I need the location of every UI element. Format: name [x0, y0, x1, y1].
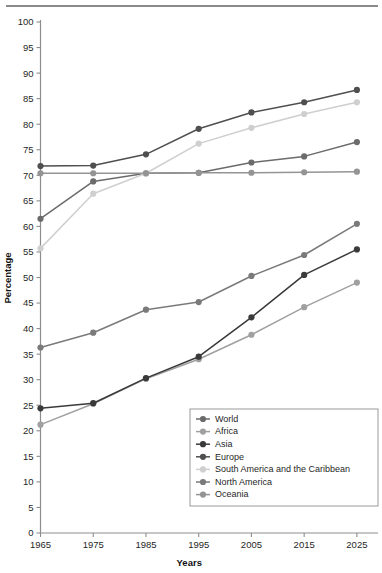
- data-point: [301, 304, 307, 310]
- y-tick-label: 70: [23, 170, 34, 181]
- data-point: [196, 170, 202, 176]
- data-point: [248, 314, 254, 320]
- series-world: [37, 139, 360, 222]
- legend-swatch-marker: [200, 492, 206, 498]
- legend-item-label: Oceania: [215, 489, 249, 499]
- data-point: [301, 272, 307, 278]
- y-tick-label: 30: [23, 374, 34, 385]
- data-point: [90, 162, 96, 168]
- y-tick-label: 95: [23, 42, 34, 53]
- x-axis-ticks: 1965197519851995200520152025: [30, 533, 368, 550]
- y-tick-label: 25: [23, 400, 34, 411]
- x-tick-label: 1995: [188, 539, 209, 550]
- series-oceania: [37, 169, 360, 177]
- series-north-america: [37, 221, 360, 351]
- data-point: [37, 216, 43, 222]
- chart-canvas: 0510152025303540455055606570758085909510…: [0, 0, 382, 573]
- data-point: [248, 109, 254, 115]
- series-line: [41, 142, 357, 219]
- data-point: [301, 252, 307, 258]
- data-point: [37, 245, 43, 251]
- data-point: [196, 299, 202, 305]
- data-point: [354, 87, 360, 93]
- data-point: [196, 354, 202, 360]
- data-point: [354, 139, 360, 145]
- data-point: [248, 332, 254, 338]
- line-chart: 0510152025303540455055606570758085909510…: [0, 0, 382, 573]
- legend-item-label: Asia: [215, 439, 233, 449]
- data-point: [90, 178, 96, 184]
- data-point: [354, 280, 360, 286]
- data-point: [143, 170, 149, 176]
- data-point: [143, 307, 149, 313]
- y-tick-label: 0: [28, 527, 33, 538]
- x-tick-label: 1985: [135, 539, 156, 550]
- y-tick-label: 80: [23, 119, 34, 130]
- legend-item-label: Europe: [215, 452, 244, 462]
- data-point: [90, 170, 96, 176]
- data-point: [354, 221, 360, 227]
- y-tick-label: 85: [23, 93, 34, 104]
- legend-item-label: World: [215, 414, 238, 424]
- data-point: [196, 141, 202, 147]
- legend-swatch-marker: [200, 479, 206, 485]
- y-axis-ticks: 0510152025303540455055606570758085909510…: [18, 16, 41, 538]
- legend-item-label: Africa: [215, 426, 238, 436]
- data-point: [354, 99, 360, 105]
- y-tick-label: 60: [23, 221, 34, 232]
- x-tick-label: 2005: [241, 539, 262, 550]
- data-point: [90, 330, 96, 336]
- data-point: [248, 273, 254, 279]
- data-point: [301, 99, 307, 105]
- x-tick-label: 1965: [30, 539, 51, 550]
- x-tick-label: 1975: [83, 539, 104, 550]
- y-tick-label: 35: [23, 349, 34, 360]
- data-point: [90, 191, 96, 197]
- y-tick-label: 100: [18, 16, 34, 27]
- y-tick-label: 10: [23, 476, 34, 487]
- series-line: [41, 249, 357, 408]
- legend-swatch-marker: [200, 416, 206, 422]
- x-tick-label: 2025: [346, 539, 367, 550]
- legend-item-label: North America: [215, 477, 272, 487]
- data-point: [248, 159, 254, 165]
- series-europe: [37, 87, 360, 169]
- y-tick-label: 55: [23, 246, 34, 257]
- data-point: [354, 169, 360, 175]
- data-point: [90, 400, 96, 406]
- series-asia: [37, 246, 360, 411]
- data-point: [37, 422, 43, 428]
- data-point: [37, 344, 43, 350]
- y-tick-label: 65: [23, 195, 34, 206]
- data-point: [143, 151, 149, 157]
- legend-item-label: South America and the Caribbean: [215, 464, 350, 474]
- legend-swatch-marker: [200, 454, 206, 460]
- data-point: [196, 126, 202, 132]
- y-tick-label: 75: [23, 144, 34, 155]
- legend-swatch-marker: [200, 441, 206, 447]
- y-tick-label: 15: [23, 451, 34, 462]
- data-point: [143, 375, 149, 381]
- y-tick-label: 45: [23, 297, 34, 308]
- y-tick-label: 90: [23, 68, 34, 79]
- series-line: [41, 224, 357, 348]
- x-axis-title: Years: [177, 557, 202, 568]
- y-tick-label: 40: [23, 323, 34, 334]
- legend-item-south-america-and-the-caribbean[interactable]: South America and the Caribbean: [196, 464, 350, 474]
- x-tick-label: 2015: [294, 539, 315, 550]
- data-point: [301, 111, 307, 117]
- data-point: [248, 170, 254, 176]
- series-layer: [37, 87, 360, 428]
- data-point: [301, 169, 307, 175]
- legend-swatch-marker: [200, 429, 206, 435]
- legend-swatch-marker: [200, 466, 206, 472]
- chart-legend: WorldAfricaAsiaEuropeSouth America and t…: [190, 409, 378, 506]
- data-point: [301, 153, 307, 159]
- data-point: [248, 125, 254, 131]
- y-tick-label: 50: [23, 272, 34, 283]
- y-tick-label: 20: [23, 425, 34, 436]
- y-tick-label: 5: [28, 502, 33, 513]
- data-point: [37, 405, 43, 411]
- data-point: [354, 246, 360, 252]
- y-axis-title: Percentage: [2, 252, 13, 303]
